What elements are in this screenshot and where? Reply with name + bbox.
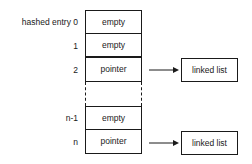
table-cell-1: empty xyxy=(85,33,142,57)
row-label-2: 2 xyxy=(0,58,78,82)
arrow-right-icon xyxy=(149,139,179,147)
row-label-1: 1 xyxy=(0,34,78,58)
table-ellipsis-gap xyxy=(85,82,142,106)
arrow-right-icon xyxy=(149,66,179,74)
row-label-n: n xyxy=(0,130,78,154)
row-label-n-1: n-1 xyxy=(0,106,78,130)
table-cell-n: pointer xyxy=(85,129,142,154)
row-label-0: hashed entry 0 xyxy=(0,10,78,34)
table-cell-n-1: empty xyxy=(85,106,142,130)
table-cell-0: empty xyxy=(85,10,142,34)
linked-list-box-1: linked list xyxy=(181,58,238,82)
table-cell-2: pointer xyxy=(85,57,142,82)
linked-list-box-2: linked list xyxy=(181,131,238,155)
